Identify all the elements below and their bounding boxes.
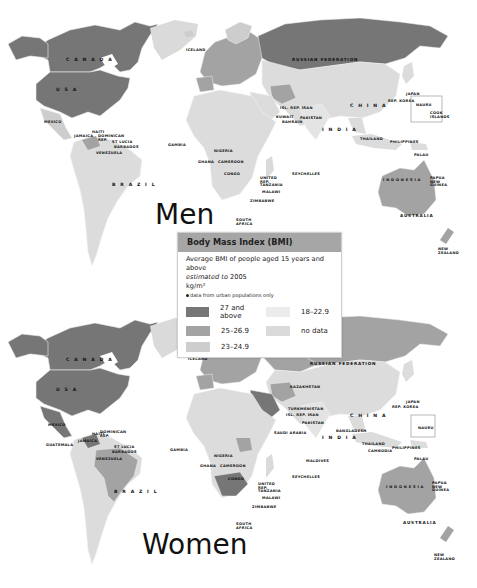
label-new-zealand: NEW ZEALAND <box>434 554 448 561</box>
canada-shape <box>30 22 158 72</box>
label-thailand: THAILAND <box>362 443 385 447</box>
label-australia: AUSTRALIA <box>403 521 437 525</box>
label-papua-new-guinea: PAPUA NEW GUINEA <box>430 177 444 188</box>
label-australia: AUSTRALIA <box>400 214 434 218</box>
label-nigeria: NIGERIA <box>214 150 233 154</box>
legend-swatches: 27 and above 18–22.9 25–26.9 no data 23–… <box>186 304 333 352</box>
label-malawi: MALAWI <box>262 497 280 501</box>
women-title: Women <box>142 528 247 561</box>
swatch-18-22 <box>266 307 290 317</box>
madagascar-shape <box>266 454 274 478</box>
label-pakistan: PAKISTAN <box>302 422 324 426</box>
label-brazil: B R A Z I L <box>112 183 156 188</box>
alaska-shape <box>8 334 48 358</box>
label-papua-new-guinea: PAPUA NEW GUINEA <box>432 482 446 493</box>
iberia-shape <box>196 76 214 92</box>
label-barbados: BARBADOS <box>114 146 139 150</box>
legend-description: Average BMI of people aged 15 years and … <box>186 255 333 273</box>
label-nigeria: NIGERIA <box>214 455 233 459</box>
label-gambia: GAMBIA <box>170 449 188 453</box>
label-cameroon: CAMEROON <box>218 161 244 165</box>
label-china: C H I N A <box>350 104 387 109</box>
legend-item-no-data: no data <box>266 326 336 336</box>
label-jamaica: JAMAICA <box>74 135 93 139</box>
label-brazil: B R A Z I L <box>114 490 158 495</box>
legend-item-18-22: 18–22.9 <box>266 304 336 320</box>
label-barbados: BARBADOS <box>112 451 137 455</box>
new-zealand-shape <box>440 228 454 244</box>
label-jamaica: JAMAICA <box>78 440 97 444</box>
label-new-zealand: NEW ZEALAND <box>438 248 452 255</box>
label-nauru: NAURU <box>416 104 432 108</box>
label-pakistan: PAKISTAN <box>300 117 322 121</box>
legend-unit: kg/m² <box>186 282 333 291</box>
label-philippines: PHILIPPINES <box>390 141 419 145</box>
label-tanzania: UNITED REP. TANZANIA <box>258 483 280 494</box>
label-congo: CONGO <box>228 478 244 482</box>
label-south-africa: SOUTH AFRICA <box>236 219 250 226</box>
men-title: Men <box>155 198 214 231</box>
label-india: I N D I A <box>322 128 357 133</box>
label-iran: ISL. REP. IRAN <box>286 414 319 418</box>
label-seychelles: SEYCHELLES <box>292 173 320 177</box>
legend-note: data from urban populations only <box>186 291 333 299</box>
label-seychelles: SEYCHELLES <box>292 476 320 480</box>
label-ghana: GHANA <box>198 161 214 165</box>
label-rep-korea: REP. KOREA <box>388 100 415 104</box>
label-russia: RUSSIAN FEDERATION <box>310 362 376 366</box>
label-russia: RUSSIAN FEDERATION <box>292 58 358 62</box>
label-iceland: ICELAND <box>188 358 208 362</box>
legend-title: Body Mass Index (BMI) <box>178 233 341 252</box>
label-congo: CONGO <box>224 173 240 177</box>
label-iceland: ICELAND <box>186 49 206 53</box>
label-kazakhstan: KAZAKHSTAN <box>290 386 320 390</box>
label-rep-korea: REP. KOREA <box>392 406 419 410</box>
label-guatemala: GUATEMALA <box>46 444 73 448</box>
label-maldives: MALDIVES <box>306 460 329 464</box>
alaska-shape <box>8 36 48 60</box>
label-indonesia: I N D O N E S I A <box>383 179 421 183</box>
label-venezuela: VENEZUELA <box>96 152 122 156</box>
label-saudi-arabia: SAUDI ARABIA <box>274 432 307 436</box>
label-cambodia: CAMBODIA <box>368 450 392 454</box>
legend-body: Average BMI of people aged 15 years and … <box>178 252 341 357</box>
australia-shape <box>378 160 436 216</box>
label-japan: JAPAN <box>406 93 420 97</box>
label-dominican-rep: DOMINICAN REP. <box>100 431 118 438</box>
japan-shape <box>402 360 414 382</box>
iberia-shape <box>196 374 214 390</box>
bmi-legend: Body Mass Index (BMI) Average BMI of peo… <box>177 232 342 358</box>
label-palau: PALAU <box>414 458 428 462</box>
label-turkmenistan: TURKMENISTAN <box>288 408 323 412</box>
swatch-23-24 <box>186 342 210 352</box>
label-malawi: MALAWI <box>262 191 280 195</box>
japan-shape <box>402 62 414 84</box>
label-cook-islands: COOK ISLANDS <box>430 112 444 119</box>
greenland-shape <box>150 20 198 60</box>
new-zealand-shape <box>440 526 454 542</box>
label-zimbabwe: ZIMBABWE <box>250 200 274 204</box>
label-palau: PALAU <box>414 154 428 158</box>
label-bahrain: BAHRAIN <box>282 121 303 125</box>
label-bangladesh: BANGLADESH <box>336 430 367 434</box>
label-mexico: MEXICO <box>44 121 62 125</box>
swatch-no-data <box>266 326 290 336</box>
label-gambia: GAMBIA <box>168 144 186 148</box>
label-philippines: PHILIPPINES <box>392 447 421 451</box>
legend-item-27-above: 27 and above <box>186 304 266 320</box>
legend-item-25-26: 25–26.9 <box>186 326 266 336</box>
label-china: C H I N A <box>350 414 387 419</box>
swatch-25-26 <box>186 326 210 336</box>
label-iran: ISL. REP. IRAN <box>280 107 313 111</box>
label-zimbabwe: ZIMBABWE <box>252 506 276 510</box>
label-ghana: GHANA <box>200 465 216 469</box>
label-indonesia: I N D O N E S I A <box>386 486 424 490</box>
label-canada: C A N A D A <box>66 58 113 63</box>
label-canada: C A N A D A <box>66 358 113 363</box>
label-thailand: THAILAND <box>360 138 383 142</box>
label-usa: U S A <box>56 88 78 93</box>
legend-item-23-24: 23–24.9 <box>186 342 266 352</box>
label-cameroon: CAMEROON <box>220 465 246 469</box>
label-usa: U S A <box>56 388 78 393</box>
label-nauru: NAURU <box>418 427 434 431</box>
